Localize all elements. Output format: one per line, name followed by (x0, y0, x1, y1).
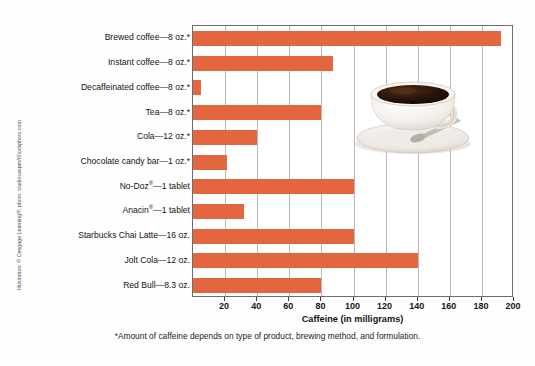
plot-area (192, 25, 513, 297)
category-label: Instant coffee—8 oz.* (34, 57, 190, 67)
category-label: Starbucks Chai Latte—16 oz. (34, 230, 190, 240)
photo-credit: Illustration: © Cengage Learning®; photo… (16, 100, 22, 310)
x-tick-label-120: 120 (377, 301, 392, 311)
bar (193, 179, 354, 194)
x-tick-label-200: 200 (505, 301, 520, 311)
x-tick-label-100: 100 (345, 301, 360, 311)
category-label-column: Brewed coffee—8 oz.*Instant coffee—8 oz.… (34, 25, 190, 297)
gridline-180 (482, 26, 483, 296)
category-label: Brewed coffee—8 oz.* (34, 32, 190, 42)
category-label: Chocolate candy bar—1 oz.* (34, 156, 190, 166)
gridline-160 (450, 26, 451, 296)
category-label: Cola—12 oz.* (34, 131, 190, 141)
chart-footnote: *Amount of caffeine depends on type of p… (0, 331, 535, 341)
bar (193, 155, 227, 170)
x-axis-title: Caffeine (in milligrams) (192, 314, 513, 324)
bar (193, 253, 418, 268)
x-tick-label-160: 160 (441, 301, 456, 311)
x-tick-label-40: 40 (251, 301, 261, 311)
caffeine-bar-chart-figure: Illustration: © Cengage Learning®; photo… (0, 0, 535, 366)
x-tick-label-20: 20 (219, 301, 229, 311)
category-label: Anacin®—1 tablet (34, 205, 190, 215)
bar (193, 105, 321, 120)
category-label: No-Doz®—1 tablet (34, 181, 190, 191)
x-tick-label-60: 60 (283, 301, 293, 311)
coffee-cup-photo (341, 74, 491, 156)
category-label: Jolt Cola—12 oz. (34, 255, 190, 265)
x-tick-label-140: 140 (409, 301, 424, 311)
x-axis: 20406080100120140160180200 (192, 297, 513, 313)
bar (193, 204, 244, 219)
bar (193, 80, 201, 95)
bar (193, 229, 354, 244)
bar (193, 56, 333, 71)
category-label: Tea—8 oz.* (34, 107, 190, 117)
x-tick-label-80: 80 (315, 301, 325, 311)
gridline-140 (418, 26, 419, 296)
x-tick-label-180: 180 (473, 301, 488, 311)
bar (193, 278, 321, 293)
bar (193, 130, 257, 145)
bar (193, 31, 501, 46)
category-label: Decaffeinated coffee—8 oz.* (34, 82, 190, 92)
category-label: Red Bull—8.3 oz. (34, 280, 190, 290)
